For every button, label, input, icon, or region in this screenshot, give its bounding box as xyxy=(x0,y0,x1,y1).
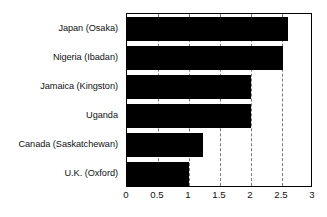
category-label: Jamaica (Kingston) xyxy=(0,81,118,91)
x-tick-label: 1.5 xyxy=(212,189,225,201)
x-tick-label: 0.5 xyxy=(150,189,163,201)
category-label: Nigeria (Ibadan) xyxy=(0,52,118,62)
bar-chart: Japan (Osaka)Nigeria (Ibadan)Jamaica (Ki… xyxy=(0,0,327,217)
bar xyxy=(127,17,288,41)
value-axis: 00.511.522.53 xyxy=(126,189,312,209)
bar xyxy=(127,162,189,186)
x-tick-label: 2.5 xyxy=(274,189,287,201)
x-tick-label: 0 xyxy=(123,189,128,201)
category-label: Japan (Osaka) xyxy=(0,23,118,33)
category-axis: Japan (Osaka)Nigeria (Ibadan)Jamaica (Ki… xyxy=(0,13,122,187)
category-label: Canada (Saskatchewan) xyxy=(0,139,118,149)
bar xyxy=(127,46,283,70)
bar xyxy=(127,133,203,157)
bar xyxy=(127,104,251,128)
category-label: Uganda xyxy=(0,110,118,120)
bar-series xyxy=(127,14,311,186)
bar xyxy=(127,75,251,99)
category-label: U.K. (Oxford) xyxy=(0,168,118,178)
plot-area xyxy=(126,13,312,187)
x-tick-label: 3 xyxy=(309,189,314,201)
x-tick-label: 2 xyxy=(247,189,252,201)
x-tick-label: 1 xyxy=(185,189,190,201)
